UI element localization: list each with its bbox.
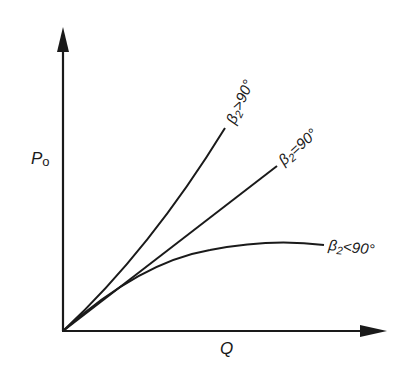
power-vs-flow-diagram: Po Q β2>90° β2=90° β2<90° (0, 0, 418, 381)
y-axis (57, 27, 69, 331)
curve-beta2-equal-90 (63, 166, 277, 331)
y-axis-label: Po (31, 149, 50, 169)
label-beta2-less-90: β2<90° (326, 236, 375, 260)
x-axis-label: Q (220, 339, 233, 358)
label-beta2-greater-90: β2>90° (222, 77, 259, 128)
label-beta2-equal-90: β2=90° (274, 125, 322, 171)
curve-beta2-less-90 (63, 242, 324, 331)
x-axis-arrow-icon (360, 325, 387, 337)
x-axis (62, 325, 387, 337)
y-axis-arrow-icon (57, 27, 69, 52)
curve-beta2-greater-90 (63, 128, 225, 331)
